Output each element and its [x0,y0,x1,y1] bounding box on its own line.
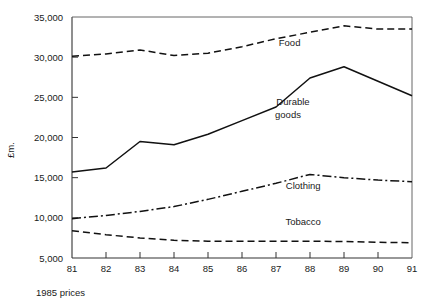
axes [72,17,412,258]
x-tick-label: 81 [67,263,78,274]
series-label-food: Food [279,37,301,48]
y-tick-label: 30,000 [34,52,63,63]
y-tick-label: 35,000 [34,12,63,23]
y-axis-tick-labels: 5,00010,00015,00020,00025,00030,00035,00… [34,12,63,264]
chart-caption: 1985 prices [36,287,85,298]
x-tick-label: 87 [271,263,282,274]
series-annotations: FoodDurablegoodsClothingTobacco [275,37,321,227]
chart-container: 5,00010,00015,00020,00025,00030,00035,00… [0,0,426,306]
y-tick-label: 25,000 [34,92,63,103]
x-tick-label: 91 [407,263,418,274]
x-axis-tick-labels: 8182838485868788899091 [67,263,418,274]
line-chart: 5,00010,00015,00020,00025,00030,00035,00… [0,0,426,306]
x-tick-label: 89 [339,263,350,274]
series-line-durable-goods [72,67,412,172]
x-tick-label: 84 [169,263,180,274]
y-tick-label: 5,000 [39,253,63,264]
y-axis-title: £m. [5,142,16,158]
series-label-durable-goods-line2: goods [275,109,301,120]
tick-marks [72,57,378,258]
x-tick-label: 86 [237,263,248,274]
x-tick-label: 83 [135,263,146,274]
data-series [72,26,412,243]
series-line-tobacco [72,231,412,243]
y-tick-label: 15,000 [34,172,63,183]
x-tick-label: 82 [101,263,112,274]
y-tick-label: 20,000 [34,132,63,143]
x-tick-label: 88 [305,263,316,274]
y-tick-label: 10,000 [34,212,63,223]
series-label-clothing: Clothing [286,180,321,191]
series-line-clothing [72,174,412,218]
x-tick-label: 90 [373,263,384,274]
series-line-food [72,26,412,57]
series-label-durable-goods: Durable [276,96,309,107]
x-tick-label: 85 [203,263,214,274]
series-label-tobacco: Tobacco [286,216,321,227]
